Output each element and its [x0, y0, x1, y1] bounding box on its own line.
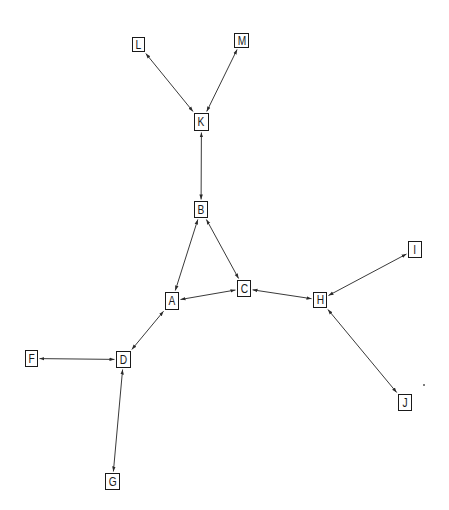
edges-layer: [0, 0, 449, 510]
node-label: A: [169, 295, 176, 307]
node-d: D: [116, 351, 131, 368]
edge-a-c: [181, 290, 236, 300]
node-c: C: [237, 280, 251, 297]
node-a: A: [165, 292, 179, 310]
edge-i-h: [329, 254, 407, 296]
node-h: H: [313, 292, 327, 308]
node-label: J: [402, 397, 407, 409]
node-b: B: [194, 201, 208, 218]
node-f: F: [25, 350, 38, 367]
node-label: D: [120, 354, 127, 366]
edge-c-h: [253, 290, 312, 299]
node-m: M: [234, 33, 249, 48]
node-g: G: [105, 473, 120, 490]
node-label: F: [28, 353, 34, 365]
edge-b-a: [175, 220, 198, 291]
edge-l-k: [146, 54, 193, 112]
node-label: C: [240, 283, 247, 295]
node-label: K: [198, 116, 205, 128]
node-l: L: [132, 37, 145, 52]
node-i: I: [408, 241, 422, 258]
node-label: B: [198, 204, 205, 216]
scan-speck: [423, 384, 425, 386]
node-label: M: [237, 35, 246, 47]
edge-f-d: [40, 359, 115, 360]
edge-a-d: [132, 311, 164, 349]
node-k: K: [194, 113, 209, 131]
edge-d-g: [113, 370, 122, 472]
node-label: I: [414, 244, 417, 256]
edge-b-c: [206, 220, 238, 279]
node-label: L: [136, 39, 142, 51]
node-label: H: [316, 294, 323, 306]
edge-m-k: [207, 50, 237, 112]
edges-group: [40, 50, 407, 472]
node-j: J: [398, 394, 412, 411]
edge-j-h: [328, 310, 397, 393]
node-label: G: [109, 476, 117, 488]
